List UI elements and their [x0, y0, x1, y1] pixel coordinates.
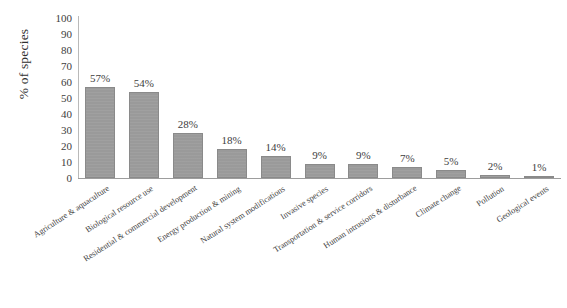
bar-slot: 5%: [429, 18, 473, 178]
bar-slot: 14%: [254, 18, 298, 178]
y-axis-tick-label: 50: [32, 93, 72, 104]
bar-slot: 54%: [122, 18, 166, 178]
x-axis-category-label: Pollution: [475, 184, 506, 209]
bar-slot: 9%: [298, 18, 342, 178]
bar-value-label: 54%: [118, 78, 170, 89]
y-axis-tick-label: 40: [32, 109, 72, 120]
y-axis-tick-label: 30: [32, 125, 72, 136]
bar: [392, 167, 422, 178]
x-axis-category-label: Natural system modifications: [199, 184, 287, 246]
bar: [305, 164, 335, 178]
bar: [348, 164, 378, 178]
x-axis-category-label: Climate change: [414, 184, 463, 221]
bar: [436, 170, 466, 178]
y-axis-tick-label: 100: [32, 13, 72, 24]
bar: [217, 149, 247, 178]
bar-slot: 57%: [78, 18, 122, 178]
bar-slot: 28%: [166, 18, 210, 178]
bar-slot: 1%: [517, 18, 561, 178]
y-axis-tick-labels: 0102030405060708090100: [0, 0, 78, 308]
bar: [261, 156, 291, 178]
x-axis-category-labels: Agriculture & aquacultureBiological reso…: [78, 182, 567, 308]
bar: [129, 92, 159, 178]
y-axis-tick-label: 60: [32, 77, 72, 88]
bar-chart-figure: % of species 0102030405060708090100 57%5…: [0, 0, 567, 308]
bar-value-label: 1%: [513, 162, 565, 173]
bar: [173, 133, 203, 178]
y-axis-tick-label: 20: [32, 141, 72, 152]
bar-value-label: 28%: [162, 119, 214, 130]
bar-slot: 2%: [473, 18, 517, 178]
y-axis-tick-label: 70: [32, 61, 72, 72]
plot-area: 57%54%28%18%14%9%9%7%5%2%1%: [78, 18, 561, 178]
bar-slot: 7%: [385, 18, 429, 178]
bar-slot: 18%: [210, 18, 254, 178]
bar: [85, 87, 115, 178]
x-axis-line: [78, 178, 561, 179]
y-axis-tick-label: 10: [32, 157, 72, 168]
bar-slot: 9%: [341, 18, 385, 178]
bar: [524, 176, 554, 178]
y-axis-tick-label: 0: [32, 173, 72, 184]
bar: [480, 175, 510, 178]
y-axis-tick-label: 80: [32, 45, 72, 56]
y-axis-tick-label: 90: [32, 29, 72, 40]
